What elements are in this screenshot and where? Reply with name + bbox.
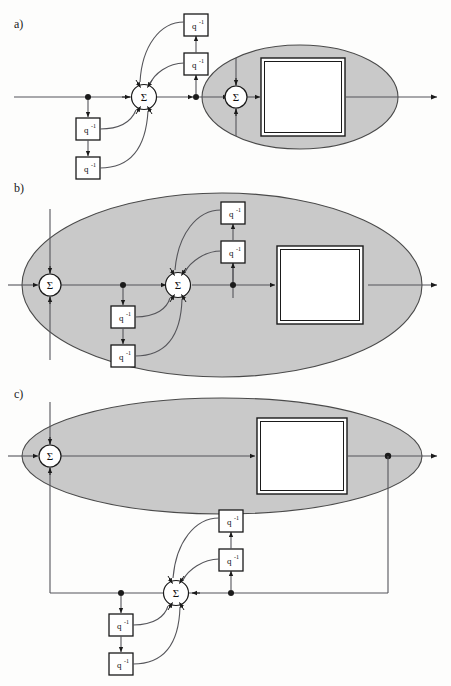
panel-c-tap-dot-right [228,590,234,596]
delay-exponent: -1 [91,123,96,129]
panel-b-delay-block-u2: q -1 [221,202,245,224]
delay-label: q [84,164,89,174]
delay-label: q [84,125,89,135]
panel-b-tap-dot-right [230,282,236,288]
panel-a-system-block-inner [265,62,342,133]
panel-a-feed-curve-l1 [100,110,136,129]
panel-a-delay-block-l2: q -1 [76,157,100,179]
delay-exponent: -1 [124,658,129,664]
delay-label: q [119,352,124,362]
delay-exponent: -1 [91,162,96,168]
panel-c-sum-node-2: Σ [164,576,201,610]
panel-b-label: b) [14,181,24,195]
delay-label: q [117,660,122,670]
panel-a-label: a) [14,17,23,31]
panel-b: b) Σ Σ [8,181,437,377]
delay-label: q [227,556,232,566]
panel-a-sum-node-1: Σ [122,80,157,114]
delay-exponent: -1 [126,350,131,356]
panel-a-delay-block-u2: q -1 [184,14,208,36]
delay-exponent: -1 [234,554,239,560]
delay-label: q [192,60,197,70]
panel-c-feed-curve-u1 [183,559,219,580]
panel-c-feed-curve-u2 [173,518,219,578]
panel-a-tap-dot-left [85,94,91,100]
panel-a-delay-block-l1: q -1 [76,118,100,140]
panel-c: c) Σ Σ [8,387,437,675]
delay-label: q [229,248,234,258]
panel-c-feed-curve-l2 [133,607,180,664]
panel-b-delay-block-l2: q -1 [111,345,135,367]
panel-b-system-block-inner [281,250,360,321]
delay-label: q [229,209,234,219]
panel-b-delay-block-l1: q -1 [111,306,135,328]
panel-c-delay-block-u2: q -1 [219,510,243,532]
delay-exponent: -1 [234,515,239,521]
panel-a-delay-block-u1: q -1 [184,53,208,75]
sum-symbol: Σ [175,279,181,291]
panel-c-feed-curve-l1 [133,606,168,625]
sum-symbol: Σ [233,91,239,103]
panel-b-tap-dot-left [120,282,126,288]
panel-b-delay-block-u1: q -1 [221,241,245,263]
panel-a-tap-dot-right [193,94,199,100]
delay-exponent: -1 [199,58,204,64]
delay-exponent: -1 [236,246,241,252]
delay-label: q [119,313,124,323]
panel-a-feed-curve-u2 [140,22,184,82]
delay-label: q [192,21,197,31]
panel-c-delay-block-l1: q -1 [109,614,133,636]
panel-c-delay-block-u1: q -1 [219,549,243,571]
panel-c-delay-block-l2: q -1 [109,653,133,675]
delay-label: q [117,621,122,631]
figure-diagram: a) Σ Σ [0,0,451,686]
panel-a-feed-curve-u1 [150,63,184,84]
delay-exponent: -1 [236,207,241,213]
delay-exponent: -1 [126,311,131,317]
panel-c-tap-dot-left [118,590,124,596]
panel-a: a) Σ Σ [14,14,437,179]
panel-c-system-block-inner [261,422,344,491]
diagram-canvas: a) Σ Σ [0,0,451,686]
delay-exponent: -1 [124,619,129,625]
delay-exponent: -1 [199,19,204,25]
sum-symbol: Σ [173,587,179,599]
sum-symbol: Σ [47,450,53,462]
sum-symbol: Σ [141,91,147,103]
sum-symbol: Σ [47,279,53,291]
panel-a-feed-curve-l2 [100,111,148,168]
panel-c-label: c) [14,387,23,401]
delay-label: q [227,517,232,527]
